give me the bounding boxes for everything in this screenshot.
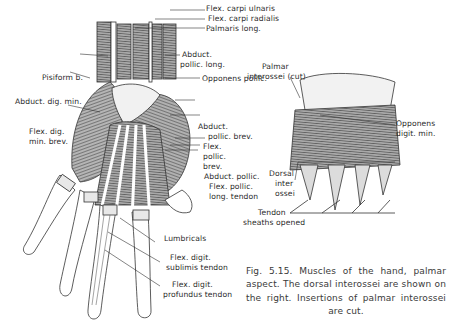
left-hand: [23, 22, 192, 319]
label-flex-digit-sublimis-2: sublimis tendon: [166, 263, 228, 272]
label-flex-dig-min-brev-2: min. brev.: [29, 137, 68, 146]
figure-caption: Fig. 5.15. Muscles of the hand, palmar a…: [246, 265, 446, 318]
label-flex-pollic-brev-1: Flex.: [203, 142, 221, 151]
label-abduct-pollic-brev-1: Abduct.: [198, 122, 228, 131]
label-flex-pollic-long-tendon-2: long. tendon: [209, 192, 258, 201]
label-tendon-sheaths-2: sheaths opened: [243, 218, 305, 227]
label-lumbricals: Lumbricals: [164, 234, 206, 243]
label-abduct-pollic-long-2: pollic. long.: [180, 60, 225, 69]
label-abduct-pollic-brev-2: pollic. brev.: [208, 132, 253, 141]
label-pisiform: Pisiform b.: [42, 73, 83, 82]
label-flex-pollic-long-tendon-1: Flex. pollic.: [209, 182, 253, 191]
label-dorsal-interossei-3: ossei: [275, 189, 295, 198]
label-palmar-interossei-1: Palmar: [262, 62, 289, 71]
label-abduct-pollic: Abduct. pollic.: [204, 172, 260, 181]
label-flex-digit-profundus-2: profundus tendon: [163, 290, 232, 299]
label-dorsal-interossei-1: Dorsal: [269, 169, 294, 178]
label-flex-dig-min-brev-1: Flex. dig.: [29, 127, 65, 136]
label-abduct-dig-min: Abduct. dig. min.: [15, 97, 82, 106]
label-palmaris-long: Palmaris long.: [206, 24, 261, 33]
label-tendon-sheaths-1: Tendon: [258, 208, 286, 217]
label-abduct-pollic-long-1: Abduct.: [182, 50, 212, 59]
label-flex-carpi-radialis: Flex. carpi radialis: [208, 14, 279, 23]
anatomy-figure: Flex. carpi ulnaris Flex. carpi radialis…: [0, 0, 450, 336]
label-opponens-digit-min-1: Opponens: [396, 119, 435, 128]
label-flex-pollic-brev-3: brev.: [203, 162, 222, 171]
label-flex-pollic-brev-2: pollic.: [203, 152, 226, 161]
label-flex-digit-profundus-1: Flex. digit.: [172, 280, 213, 289]
label-flex-carpi-ulnaris: Flex. carpi ulnaris: [206, 4, 275, 13]
label-palmar-interossei-2: interossei (cut): [247, 72, 306, 81]
right-hand: [290, 73, 400, 213]
label-dorsal-interossei-2: inter: [275, 179, 293, 188]
label-opponens-digit-min-2: digit. min.: [396, 129, 436, 138]
label-flex-digit-sublimis-1: Flex. digit.: [170, 253, 211, 262]
